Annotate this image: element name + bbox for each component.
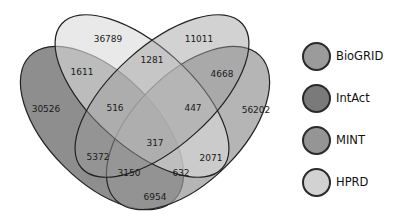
label-intact-biogrid-mint: 3150 [118,168,141,178]
label-mint-only: 56202 [242,105,271,115]
label-intact-hprd-biogrid: 516 [106,103,123,113]
intact-swatch-icon [302,84,331,113]
legend: BioGRID IntAct MINT HPRD [302,0,410,224]
label-hprd-only: 36789 [94,34,123,44]
label-hprd-mint: 2071 [200,153,223,163]
hprd-swatch-icon [302,168,331,197]
label-hprd-biogrid-mint: 447 [184,103,201,113]
legend-label: HPRD [336,175,368,189]
legend-label: BioGRID [336,49,383,63]
biogrid-swatch-icon [302,42,331,71]
label-intact-hprd: 1611 [71,67,94,77]
legend-item-biogrid: BioGRID [302,40,383,72]
label-biogrid-only: 11011 [185,34,214,44]
legend-item-mint: MINT [302,124,365,156]
legend-label: IntAct [336,91,370,105]
label-intact-hprd-mint: 632 [172,168,189,178]
label-hprd-biogrid: 1281 [141,55,164,65]
legend-item-intact: IntAct [302,82,370,114]
venn-diagram: 36789 11011 1611 1281 4668 30526 516 447… [0,0,300,224]
mint-swatch-icon [302,126,331,155]
legend-label: MINT [336,133,365,147]
label-biogrid-mint: 4668 [211,69,234,79]
label-intact-mint: 6954 [144,192,167,202]
label-intact-biogrid: 5372 [87,152,110,162]
legend-item-hprd: HPRD [302,166,368,198]
label-intact-only: 30526 [32,104,61,114]
label-all-four: 317 [146,138,163,148]
